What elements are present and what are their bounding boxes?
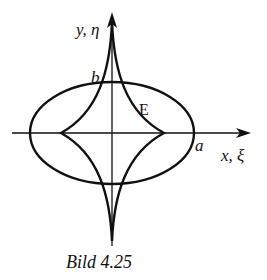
curve-E-label: E [139,101,149,118]
figure-caption: Bild 4.25 [66,252,132,272]
y-axis-label: y, η [74,20,100,39]
x-axis-label: x, ξ [220,146,245,165]
diagram: y, η b E a x, ξ Bild 4.25 [0,0,267,280]
point-b-label: b [91,68,100,87]
point-a-label: a [195,136,204,155]
